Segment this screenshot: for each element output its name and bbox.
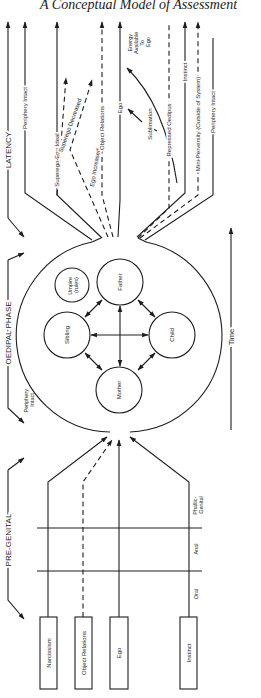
label-object-relations: Object Relations (99, 106, 105, 150)
phase-label-oedipal: OEDIPAL PHASE (4, 301, 13, 364)
narcissism-flow-line (48, 437, 107, 617)
arrow-sibling-mother (85, 353, 102, 370)
label-energy-available-to-ego: Energy Available To Ego (127, 30, 151, 54)
label-child: Child (169, 328, 175, 342)
arrow-sibling-father (85, 300, 102, 317)
latency-labels: Periphery Intact Superego-Ego Ideal Supe… (22, 62, 216, 187)
outer-circle-notch-left (92, 238, 101, 242)
stage-label-genital: Genital (198, 496, 204, 513)
label-sublimation: Sublimation (147, 108, 153, 139)
latency-bracket-arrow (8, 218, 24, 237)
outer-circle-notch-right (138, 238, 146, 242)
arrow-father-child (138, 300, 155, 317)
stage-label-oral: Oral (193, 589, 199, 599)
label-ego-increased: Ego Increased (89, 148, 102, 187)
label-periphery-intact-left: Periphery Intact (22, 87, 28, 129)
assessment-model-diagram: A Conceptual Model of Assessment LATENCY… (0, 0, 261, 698)
sublimation-arrow (128, 109, 142, 122)
latency-line-superego-ego-ideal (57, 22, 102, 238)
label-superego-ego-ideal: Superego-Ego Ideal (54, 133, 60, 186)
arrow-mother-child (138, 353, 155, 370)
label-mini-perversity: Mini-Perversity (Outside of System) (195, 77, 201, 171)
phase-label-latency: LATENCY (4, 131, 13, 168)
box-label-narcissism: Narcissism (46, 638, 52, 667)
label-father: Father (117, 273, 123, 290)
box-label-object-relations: Object Relations (81, 631, 87, 675)
stage-label-anal: Anal (193, 543, 199, 554)
phase-label-pregenital: PRE-GENITAL (4, 513, 13, 566)
label-ego: Ego (117, 102, 123, 113)
label-repressed-oedipus: Repressed Oedipus (166, 103, 172, 156)
label-superego-decreased: Superego Decreased (58, 98, 83, 153)
energy-line4: Ego (145, 37, 151, 47)
oedipal-top-arrow (8, 253, 24, 260)
label-mother: Mother (116, 381, 122, 400)
latency-line-instinct (137, 22, 185, 237)
label-instinct: Instinct (182, 62, 188, 81)
pregenital-top-arrow (8, 458, 24, 470)
latency-section (25, 22, 213, 240)
label-umpire-line2: (rules) (73, 277, 79, 293)
label-umpire: Umpire (rules) (67, 275, 79, 294)
periphery-line2: Intact (29, 393, 35, 407)
time-label: Time (227, 329, 236, 345)
label-sibling: Sibling (64, 326, 70, 344)
latency-line-periphery-left (25, 22, 92, 240)
box-label-instinct: Instinct (186, 643, 192, 662)
diagram-canvas: LATENCY OEDIPAL PHASE PRE-GENITAL Time (0, 0, 261, 698)
latency-line-periphery-right (145, 38, 213, 240)
instinct-flow-line (130, 437, 189, 617)
oedipal-section (16, 238, 222, 432)
stage-label-phallic-genital: Phallic- Genital (192, 495, 204, 515)
latency-line-ego (118, 22, 120, 237)
label-periphery-intact-right: Periphery Intact (210, 91, 216, 133)
box-label-ego: Ego (116, 647, 122, 658)
diagram-title: A Conceptual Model of Assessment (40, 0, 261, 13)
